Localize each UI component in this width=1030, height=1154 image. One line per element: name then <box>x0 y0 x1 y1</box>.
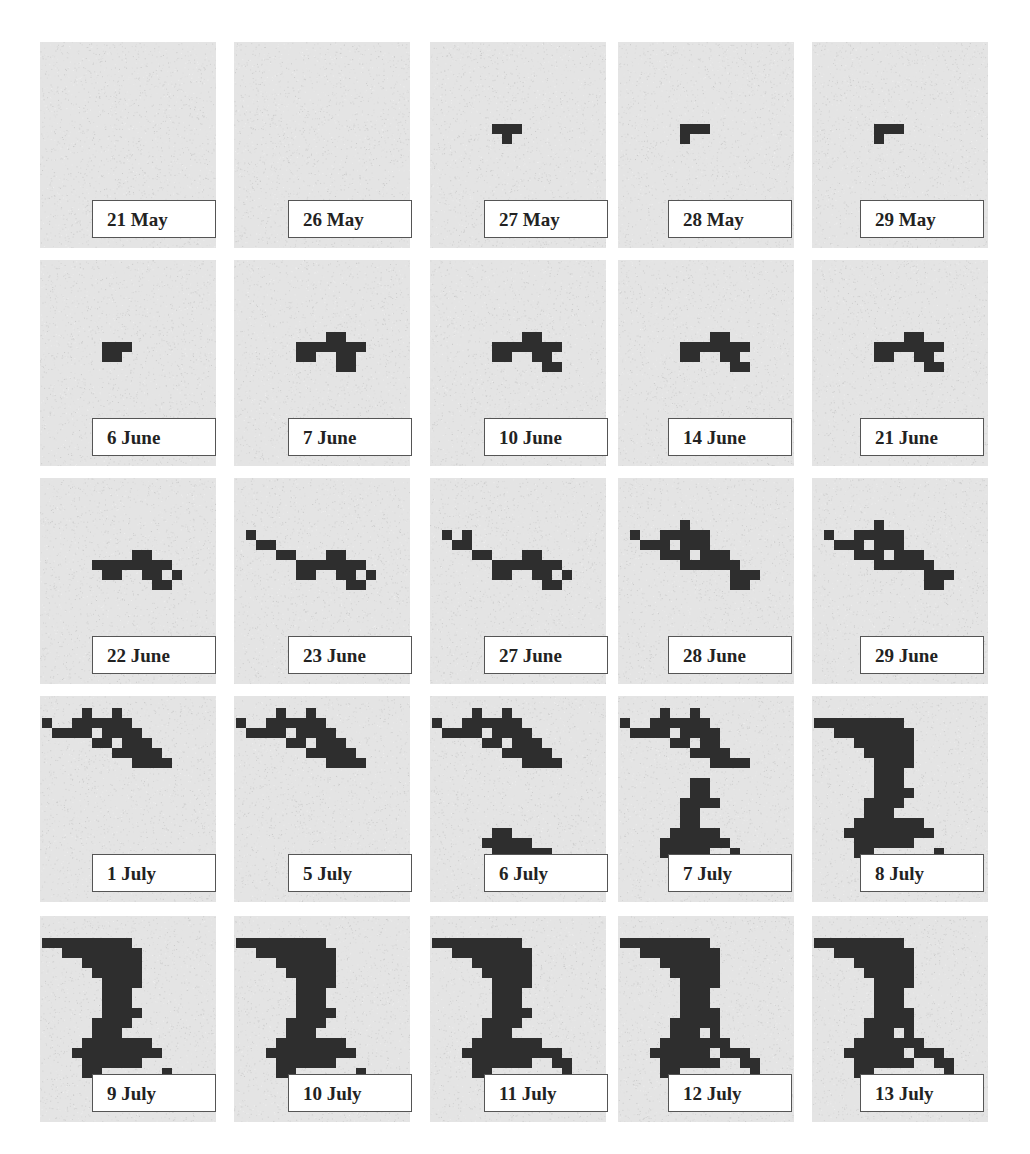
date-label: 27 May <box>484 200 608 238</box>
date-label: 13 July <box>860 1074 984 1112</box>
date-label: 10 July <box>288 1074 412 1112</box>
date-label: 22 June <box>92 636 216 674</box>
map-panel: 26 May <box>234 42 410 248</box>
map-panel: 27 May <box>430 42 606 248</box>
date-label: 26 May <box>288 200 412 238</box>
date-label: 8 July <box>860 854 984 892</box>
map-panel: 12 July <box>618 916 794 1122</box>
date-label: 7 June <box>288 418 412 456</box>
date-label: 6 July <box>484 854 608 892</box>
spread-figure: 21 May26 May27 May28 May29 May6 June7 Ju… <box>40 42 1000 1112</box>
map-panel: 7 July <box>618 696 794 902</box>
date-label: 27 June <box>484 636 608 674</box>
date-label: 21 May <box>92 200 216 238</box>
date-label: 21 June <box>860 418 984 456</box>
map-panel: 29 June <box>812 478 988 684</box>
map-panel: 8 July <box>812 696 988 902</box>
map-panel: 11 July <box>430 916 606 1122</box>
map-panel: 29 May <box>812 42 988 248</box>
date-label: 14 June <box>668 418 792 456</box>
date-label: 28 May <box>668 200 792 238</box>
map-panel: 23 June <box>234 478 410 684</box>
map-panel: 10 June <box>430 260 606 466</box>
date-label: 5 July <box>288 854 412 892</box>
date-label: 23 June <box>288 636 412 674</box>
map-panel: 27 June <box>430 478 606 684</box>
date-label: 11 July <box>484 1074 608 1112</box>
map-panel: 22 June <box>40 478 216 684</box>
map-panel: 21 June <box>812 260 988 466</box>
map-panel: 5 July <box>234 696 410 902</box>
date-label: 6 June <box>92 418 216 456</box>
date-label: 12 July <box>668 1074 792 1112</box>
date-label: 29 June <box>860 636 984 674</box>
date-label: 29 May <box>860 200 984 238</box>
map-panel: 10 July <box>234 916 410 1122</box>
date-label: 9 July <box>92 1074 216 1112</box>
date-label: 1 July <box>92 854 216 892</box>
map-panel: 14 June <box>618 260 794 466</box>
map-panel: 7 June <box>234 260 410 466</box>
map-panel: 1 July <box>40 696 216 902</box>
map-panel: 9 July <box>40 916 216 1122</box>
date-label: 7 July <box>668 854 792 892</box>
map-panel: 28 May <box>618 42 794 248</box>
date-label: 28 June <box>668 636 792 674</box>
map-panel: 6 June <box>40 260 216 466</box>
map-panel: 28 June <box>618 478 794 684</box>
map-panel: 6 July <box>430 696 606 902</box>
date-label: 10 June <box>484 418 608 456</box>
map-panel: 13 July <box>812 916 988 1122</box>
map-panel: 21 May <box>40 42 216 248</box>
